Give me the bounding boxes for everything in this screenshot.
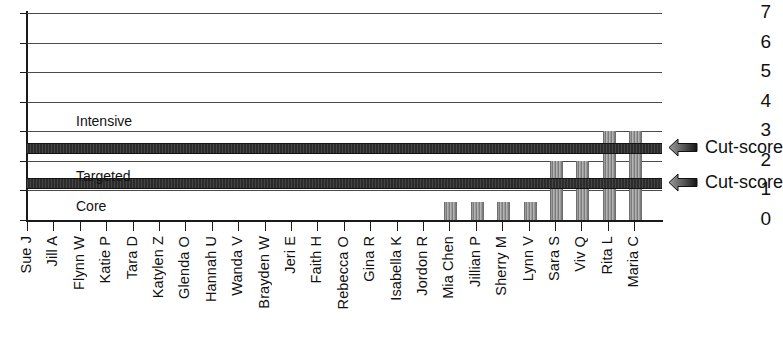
x-tick-label: Glenda O [177,236,191,299]
x-tick-mark [27,222,28,231]
x-tick-label: Gina R [362,236,376,282]
x-tick-label: Sara S [547,236,561,281]
x-tick-label: Mia Chen [441,236,455,299]
y-tick-label: 6 [753,32,771,51]
x-tick-mark [106,222,107,231]
y-tick-label: 4 [753,91,771,110]
x-tick-label: Maria C [626,236,640,287]
arrow-left-icon [668,138,698,157]
cut-score-label: Cut-score [705,137,783,158]
x-tick-mark [133,222,134,231]
x-tick-label: Rita L [600,236,614,274]
x-tick-label: Jillian P [468,236,482,287]
y-tick-label: 5 [753,61,771,80]
x-tick-label: Viv Q [573,236,587,272]
x-tick-mark [212,222,213,231]
x-tick-mark [476,222,477,231]
band-label-targeted: Targeted [76,168,130,184]
x-tick-mark [344,222,345,231]
x-tick-mark [185,222,186,231]
x-tick-mark [317,222,318,231]
x-tick-mark [80,222,81,231]
cut-score-label: Cut-score [705,172,783,193]
x-tick-mark [529,222,530,231]
x-tick-mark [370,222,371,231]
band-label-intensive: Intensive [76,113,132,129]
x-tick-label: Rebecca O [336,236,350,309]
x-tick-label: Faith H [309,236,323,283]
x-tick-label: Sue J [19,236,33,274]
x-tick-label: Jordon R [415,236,429,296]
x-tick-mark [397,222,398,231]
bar [550,161,563,220]
bar [497,202,510,220]
x-tick-label: Sherry M [494,236,508,296]
bar [576,161,589,220]
x-tick-label: Lynn V [521,236,535,281]
x-tick-mark [502,222,503,231]
x-tick-label: Jill A [45,236,59,266]
cut-score-annotation: Cut-score [668,172,783,193]
x-tick-mark [608,222,609,231]
x-tick-label: Isabella K [389,236,403,301]
x-tick-label: Wanda V [230,236,244,296]
plot-area: IntensiveTargetedCore [27,13,662,220]
y-tick-label: 7 [753,2,771,21]
x-tick-mark [159,222,160,231]
x-tick-label: Brayden W [257,236,271,309]
x-tick-label: Hannah U [204,236,218,302]
bar [471,202,484,220]
cut-score-annotation: Cut-score [668,137,783,158]
x-tick-mark [53,222,54,231]
band-label-core: Core [76,198,106,214]
x-tick-mark [238,222,239,231]
x-tick-mark [291,222,292,231]
x-tick-mark [555,222,556,231]
x-tick-mark [581,222,582,231]
x-tick-label: Flynn W [72,236,86,290]
x-tick-label: Katie P [98,236,112,283]
x-tick-mark [265,222,266,231]
x-tick-mark [423,222,424,231]
arrow-left-icon [668,173,698,192]
bar [444,202,457,220]
bar [524,202,537,220]
x-tick-label: Tara D [125,236,139,279]
x-tick-mark [634,222,635,231]
x-tick-mark [449,222,450,231]
y-tick-label: 0 [753,209,771,228]
cut-score-band [27,143,662,154]
x-tick-label: Katylen Z [151,236,165,298]
x-tick-label: Jeri E [283,236,297,274]
